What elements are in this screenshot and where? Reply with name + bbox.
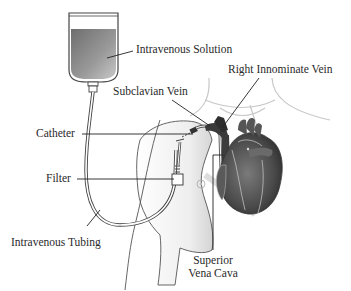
label-superior-vena-cava-line1: Superior [180, 254, 246, 267]
label-filter: Filter [46, 172, 71, 185]
label-right-innominate-vein: Right Innominate Vein [228, 63, 333, 76]
label-subclavian-vein: Subclavian Vein [113, 85, 188, 98]
label-superior-vena-cava: Superior Vena Cava [180, 254, 246, 280]
neck-shoulder-outline [190, 78, 330, 130]
iv-bag [69, 13, 118, 92]
diagram-canvas: Intravenous Solution Subclavian Vein Rig… [0, 0, 351, 291]
label-intravenous-tubing: Intravenous Tubing [11, 236, 101, 249]
label-superior-vena-cava-line2: Vena Cava [180, 267, 246, 280]
leader-intravenous-tubing [87, 210, 100, 226]
label-catheter: Catheter [36, 127, 75, 140]
label-intravenous-solution: Intravenous Solution [136, 43, 232, 56]
